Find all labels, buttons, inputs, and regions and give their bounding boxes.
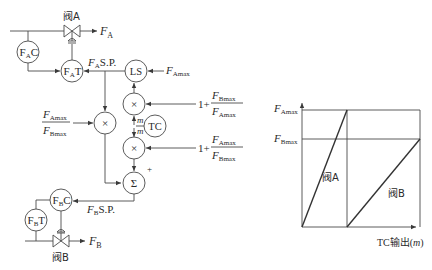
x-axis-label: TC输出(m) [377,236,424,249]
svg-text:TC: TC [148,121,161,132]
valve-a-label: 阀A [63,10,80,22]
multiplier-left[interactable]: × [94,112,116,134]
y-label-fa-max: FAmax [273,102,298,116]
fb-output-label: FB [88,234,102,250]
mult2-input-expr: 1+ FAmax FBmax [198,133,243,163]
svg-text:LS: LS [130,66,142,77]
fbt-transmitter[interactable]: FBT [25,209,47,231]
mult1-input-expr: 1+ FBmax FAmax [198,89,243,119]
mult-left-to-sum-line [105,134,121,183]
sum-to-fbc-line [73,194,134,201]
svg-text:×: × [102,117,108,129]
fb-sp-label: FBS.P. [86,203,115,217]
split-range-chart: FAmax FBmax 阀A 阀B TC输出(m) [273,102,424,249]
svg-text:×: × [131,98,137,110]
fac-controller[interactable]: FAC [17,41,39,63]
y-label-fb-max: FBmax [273,132,298,146]
ls-selector[interactable]: LS [125,60,147,82]
svg-text:FBmax: FBmax [42,124,67,138]
multiplier-2[interactable]: × [123,137,145,159]
tc-signal-top: m [137,115,144,125]
svg-text:FBmax: FBmax [211,89,236,103]
fbt-to-fbc-line [36,200,50,209]
svg-text:FAmax: FAmax [211,133,236,147]
valve-a-series-label: 阀A [322,171,339,183]
svg-text:Σ: Σ [131,177,137,189]
fa-output-label: FA [99,24,113,40]
svg-text:1+: 1+ [198,142,210,154]
svg-text:×: × [131,142,137,154]
multiplier-1[interactable]: × [123,93,145,115]
valve-b-label: 阀B [52,251,69,263]
svg-text:FAmax: FAmax [42,108,67,122]
tc-signal-bottom: m [137,126,144,136]
control-diagram: FA 阀A FAC FAT FAS.P. LS FAmax × 1+ FBm [0,0,432,270]
svg-text:FBmax: FBmax [211,149,236,163]
fac-to-fat-line [28,63,60,71]
valve-a-icon[interactable] [64,25,80,43]
svg-text:1+: 1+ [198,98,210,110]
sum-plus-sign: + [147,164,152,174]
fbc-controller[interactable]: FBC [50,189,72,211]
fa-sp-label: FAS.P. [87,56,117,70]
ls-input-label: FAmax [165,64,190,78]
mult-left-input-expr: FAmax FBmax [42,108,70,138]
valve-b-series-label: 阀B [388,187,405,199]
fat-transmitter[interactable]: FAT [61,60,83,82]
svg-text:FAmax: FAmax [211,105,236,119]
valve-b-icon[interactable] [53,230,69,248]
summer[interactable]: Σ [123,172,145,194]
tc-controller[interactable]: TC [144,115,166,137]
valve-b-line [347,139,420,227]
valve-a-line [302,110,347,227]
